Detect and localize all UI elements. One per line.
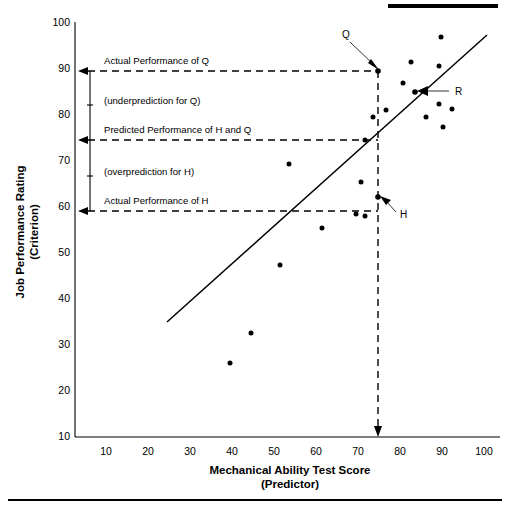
data-point [409, 60, 414, 65]
y-axis-tick-labels: 100 90 80 70 60 50 40 30 20 10 [52, 16, 70, 442]
annotation-overprediction-h: (overprediction for H) [104, 166, 194, 177]
data-point [371, 115, 376, 120]
callout-h: H [380, 196, 407, 220]
callout-q: Q [342, 29, 379, 70]
data-point [228, 361, 233, 366]
x-tick-60: 60 [310, 445, 322, 457]
annotation-actual-performance-q: Actual Performance of Q [104, 55, 209, 66]
data-point [359, 180, 364, 185]
y-tick-50: 50 [58, 246, 70, 258]
x-tick-80: 80 [394, 445, 406, 457]
data-point-r [412, 89, 418, 95]
arrowhead-actual-q [78, 67, 88, 75]
data-point [401, 81, 406, 86]
scatter-points [228, 35, 455, 366]
arrowhead-actual-h [78, 207, 88, 215]
x-axis-title: Mechanical Ability Test Score [209, 464, 370, 476]
x-tick-100: 100 [475, 445, 493, 457]
figure-container: 100 90 80 70 60 50 40 30 20 10 10 20 30 … [0, 0, 510, 512]
data-point [384, 108, 389, 113]
point-label-h: H [400, 209, 407, 220]
arrowhead-r [417, 86, 428, 96]
x-tick-50: 50 [268, 445, 280, 457]
regression-line [167, 35, 487, 322]
y-tick-70: 70 [58, 154, 70, 166]
data-point-h [375, 194, 381, 200]
x-tick-90: 90 [436, 445, 448, 457]
data-point [363, 138, 368, 143]
arrowhead-predictor-down [374, 426, 382, 437]
data-point [354, 212, 359, 217]
y-tick-20: 20 [58, 384, 70, 396]
data-point [287, 162, 292, 167]
data-point [437, 102, 442, 107]
x-tick-20: 20 [142, 445, 154, 457]
annotation-actual-performance-h: Actual Performance of H [104, 195, 209, 206]
point-label-q: Q [342, 29, 350, 40]
scatter-plot: 100 90 80 70 60 50 40 30 20 10 10 20 30 … [0, 0, 510, 512]
annotation-underprediction-q: (underprediction for Q) [104, 95, 201, 106]
y-tick-80: 80 [58, 108, 70, 120]
data-point [439, 35, 444, 40]
reference-arrowheads [78, 67, 382, 437]
y-tick-100: 100 [52, 16, 70, 28]
callout-r: R [417, 86, 462, 97]
point-label-r: R [455, 86, 462, 97]
x-axis-subtitle: (Predictor) [261, 478, 319, 490]
data-point [424, 115, 429, 120]
y-axis-subtitle: (Criterion) [28, 204, 40, 260]
y-tick-90: 90 [58, 62, 70, 74]
x-tick-10: 10 [100, 445, 112, 457]
data-point [441, 125, 446, 130]
data-point [249, 331, 254, 336]
data-point [363, 214, 368, 219]
x-tick-30: 30 [184, 445, 196, 457]
data-point [320, 226, 325, 231]
y-tick-10: 10 [58, 430, 70, 442]
y-tick-40: 40 [58, 292, 70, 304]
bottom-rule-decoration [8, 499, 502, 501]
data-point [437, 64, 442, 69]
x-axis-tick-labels: 10 20 30 40 50 60 70 80 90 100 [100, 445, 493, 457]
arrowhead-predicted [78, 136, 88, 144]
data-point [450, 107, 455, 112]
data-point [278, 263, 283, 268]
y-tick-30: 30 [58, 338, 70, 350]
y-tick-60: 60 [58, 200, 70, 212]
x-tick-40: 40 [226, 445, 238, 457]
annotation-predicted-performance: Predicted Performance of H and Q [104, 124, 251, 135]
y-axis-title: Job Performance Rating [14, 166, 26, 299]
x-tick-70: 70 [352, 445, 364, 457]
arrowhead-h [380, 196, 391, 205]
